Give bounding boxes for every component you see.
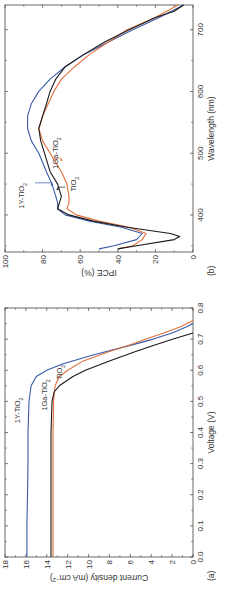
y-tick-label: 100 — [1, 254, 10, 268]
x-axis-label: Voltage (V) — [206, 411, 216, 453]
y-tick-label: 0 — [189, 254, 198, 259]
series-annotation: 1Ga-TiO2 — [51, 137, 62, 169]
x-tick-label: 0.6 — [196, 364, 205, 376]
series-line-tio2 — [51, 333, 193, 557]
x-tick-label: 0.7 — [196, 333, 205, 345]
x-tick-label: 400 — [196, 208, 205, 222]
y-tick-label: 6 — [126, 559, 135, 564]
x-tick-label: 700 — [196, 22, 205, 36]
x-tick-label: 0.8 — [196, 302, 205, 314]
x-axis-label: Wavelength (nm) — [206, 96, 216, 161]
y-tick-label: 20 — [151, 254, 160, 263]
x-tick-label: 0.3 — [196, 458, 205, 470]
y-tick-label: 4 — [147, 559, 156, 564]
panel-b-ipce-chart: 400500600700020406080100Wavelength (nm)I… — [1, 5, 216, 278]
x-tick-label: 0.5 — [196, 395, 205, 407]
series-line-tio2 — [39, 5, 184, 249]
series-annotation: 1Ga-TiO2 — [40, 379, 51, 411]
x-tick-label: 500 — [196, 146, 205, 160]
x-tick-label: 0.1 — [196, 520, 205, 532]
y-tick-label: 80 — [39, 254, 48, 263]
y-tick-label: 10 — [85, 559, 94, 568]
y-tick-label: 40 — [114, 254, 123, 263]
arrow-icon — [50, 183, 53, 186]
x-tick-label: 0.4 — [196, 426, 205, 438]
y-tick-label: 12 — [64, 559, 73, 568]
panel-label: (a) — [206, 570, 216, 581]
panel-a-jv-chart: 0.00.10.20.30.40.50.60.70.80246810121416… — [1, 302, 216, 583]
plot-frame — [5, 5, 193, 252]
y-tick-label: 0 — [189, 559, 198, 564]
y-axis-label: Current density (mA cm−2) — [50, 573, 149, 583]
series-annotation: TiO2 — [69, 177, 80, 192]
y-axis-label: IPCE (%) — [81, 268, 117, 278]
y-tick-label: 2 — [168, 559, 177, 564]
y-tick-label: 60 — [76, 254, 85, 263]
panel-label: (b) — [206, 265, 216, 276]
arrow-icon — [60, 158, 63, 161]
plot-frame — [5, 308, 193, 557]
y-tick-label: 8 — [105, 559, 114, 564]
series-annotation: 1Y-TiO2 — [13, 397, 24, 423]
series-line-1ga-tio2 — [39, 5, 178, 249]
x-tick-label: 0.2 — [196, 489, 205, 501]
y-tick-label: 16 — [22, 559, 31, 568]
y-tick-label: 14 — [43, 559, 52, 568]
series-annotation: 1Y-TiO2 — [17, 183, 28, 209]
x-tick-label: 600 — [196, 84, 205, 98]
series-line-1y-tio2 — [27, 324, 193, 557]
figure: 0.00.10.20.30.40.50.60.70.80246810121416… — [0, 0, 240, 602]
y-tick-label: 18 — [1, 559, 10, 568]
